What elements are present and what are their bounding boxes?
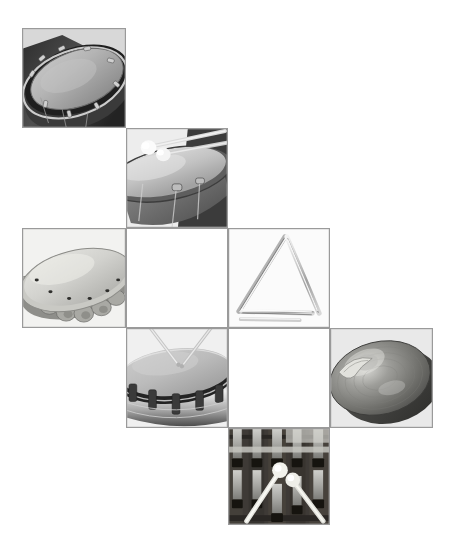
snare-drum-photo [127, 329, 227, 427]
photo-tile-xylophone[interactable]: Xylophone [228, 428, 330, 525]
photo-tile-snare-drum[interactable]: Snare drum [126, 328, 228, 428]
percussion-collage: Bass drum [0, 0, 456, 557]
photo-tile-bass-drum[interactable]: Bass drum [22, 28, 126, 128]
triangle-instrument-photo [229, 229, 329, 327]
bass-drum-photo [23, 29, 125, 127]
timpani-photo [127, 129, 227, 227]
crash-cymbals-photo [331, 329, 432, 427]
photo-tile-empty-r3c2 [126, 228, 228, 328]
photo-tile-cymbals[interactable]: Crash cymbals [330, 328, 433, 428]
xylophone-photo [229, 429, 329, 524]
photo-tile-timpani[interactable]: Timpani [126, 128, 228, 228]
photo-tile-tambourine[interactable]: Tambourine [22, 228, 126, 328]
photo-tile-empty-r4c3 [228, 328, 330, 428]
tambourine-photo [23, 229, 125, 327]
photo-tile-triangle[interactable]: Triangle [228, 228, 330, 328]
